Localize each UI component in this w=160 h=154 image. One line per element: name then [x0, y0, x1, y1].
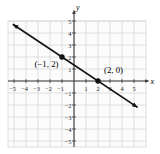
data-point — [95, 78, 100, 83]
y-axis-label: y — [75, 3, 80, 12]
data-point — [59, 54, 64, 59]
plot-background — [8, 21, 146, 147]
point-label-2-0: (2, 0) — [104, 65, 123, 75]
plot-area — [8, 21, 146, 147]
x-axis-arrowhead — [145, 79, 150, 83]
x-tick-label: −1 — [57, 85, 64, 92]
coordinate-plane-figure: −5−4−3−2−11234554321−1−2−3−4−5 (−1, 2) (… — [0, 0, 160, 154]
point-label-neg1-2: (−1, 2) — [34, 59, 58, 69]
y-tick-label: −4 — [65, 126, 73, 133]
graph-canvas: −5−4−3−2−11234554321−1−2−3−4−5 (−1, 2) (… — [0, 0, 160, 154]
x-tick-label: −4 — [21, 85, 29, 92]
x-tick-label: 1 — [84, 85, 87, 92]
x-tick-label: −3 — [33, 85, 40, 92]
x-tick-label: −5 — [9, 85, 16, 92]
y-tick-label: 3 — [68, 42, 71, 49]
y-tick-label: −2 — [65, 102, 72, 109]
x-tick-label: 2 — [96, 85, 99, 92]
y-tick-label: −5 — [65, 138, 72, 145]
x-axis-label: x — [150, 77, 155, 86]
x-tick-label: 5 — [132, 85, 135, 92]
y-tick-label: −1 — [65, 90, 72, 97]
y-tick-label: 5 — [68, 18, 71, 25]
y-tick-label: 1 — [68, 66, 71, 73]
x-tick-label: −2 — [45, 85, 52, 92]
y-tick-label: −3 — [65, 114, 72, 121]
y-tick-label: 2 — [68, 54, 71, 61]
